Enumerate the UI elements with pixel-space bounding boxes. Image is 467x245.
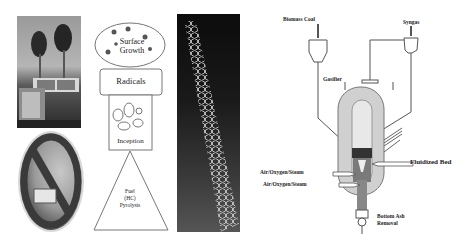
gasifier-diagram [250,0,467,245]
no-emission-sign [18,131,84,232]
inception-label: Inception [109,137,152,145]
truck-illustration [17,16,81,128]
pyrolysis-line2: (HC) [110,195,150,202]
gasifier-label: Gasifier [323,76,342,82]
air-oxygen-steam-label-1: Air/Oxygen/Steam [260,169,304,175]
carbon-nanotube-image [177,14,240,232]
air-oxygen-steam-label-2: Air/Oxygen/Steam [263,181,307,187]
truck-smoke-photo [17,16,81,128]
syngas-label: Syngas [403,19,420,25]
bottom-ash-line1: Bottom Ash [377,213,405,220]
pyrolysis-line3: Pyrolysis [110,202,150,209]
prohibition-slash-icon [20,133,82,230]
radicals-label: Radicals [100,76,162,86]
fluidized-bed-label: Fluidized Bed [410,158,451,166]
surface-growth-line1: Surface [112,37,152,46]
surface-growth-line2: Growth [112,46,152,55]
nanotube-lattice [177,14,240,232]
biomass-coal-label: Biomass Coal [283,16,315,22]
bottom-ash-removal-label: Bottom Ash Removal [377,213,405,227]
pyrolysis-label: Fuel (HC) Pyrolysis [110,188,150,209]
pyrolysis-line1: Fuel [110,188,150,195]
surface-growth-label: Surface Growth [112,37,152,55]
bottom-ash-line2: Removal [377,220,405,227]
